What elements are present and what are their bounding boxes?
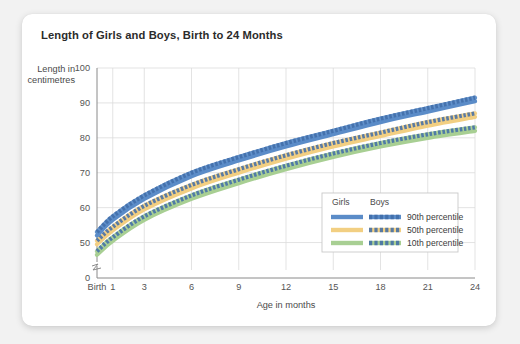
y-tick-label: 70: [80, 168, 90, 178]
legend-row-label: 90th percentile: [407, 212, 464, 222]
y-axis-title-line1: Length in: [37, 64, 75, 74]
x-tick-label: 9: [236, 282, 241, 292]
x-tick-label: Birth: [88, 282, 107, 292]
x-axis-title: Age in months: [257, 300, 316, 310]
chart-legend: GirlsBoys90th percentile50th percentile1…: [322, 193, 464, 252]
x-tick-label: 18: [375, 282, 385, 292]
legend-row-label: 10th percentile: [407, 238, 464, 248]
legend-header-boys: Boys: [370, 197, 389, 207]
chart-card: Length of Girls and Boys, Birth to 24 Mo…: [22, 14, 496, 326]
legend-row-label: 50th percentile: [407, 225, 464, 235]
x-tick-label: 15: [328, 282, 338, 292]
y-tick-label: 90: [80, 98, 90, 108]
y-axis-title-line2: centimetres: [28, 75, 76, 85]
x-tick-label: 1: [110, 282, 115, 292]
legend-header-girls: Girls: [332, 197, 350, 207]
x-tick-label: 21: [423, 282, 433, 292]
y-tick-label: 80: [80, 133, 90, 143]
x-tick-label: 24: [470, 282, 480, 292]
y-tick-label: 50: [80, 238, 90, 248]
tick-labels: 10090807060500Birth13691215182124: [75, 63, 480, 292]
x-tick-label: 3: [142, 282, 147, 292]
y-tick-label: 60: [80, 203, 90, 213]
x-tick-label: 6: [189, 282, 194, 292]
y-tick-label: 100: [75, 63, 90, 73]
chart-plot: 10090807060500Birth13691215182124 Length…: [22, 14, 496, 326]
x-tick-label: 12: [281, 282, 291, 292]
